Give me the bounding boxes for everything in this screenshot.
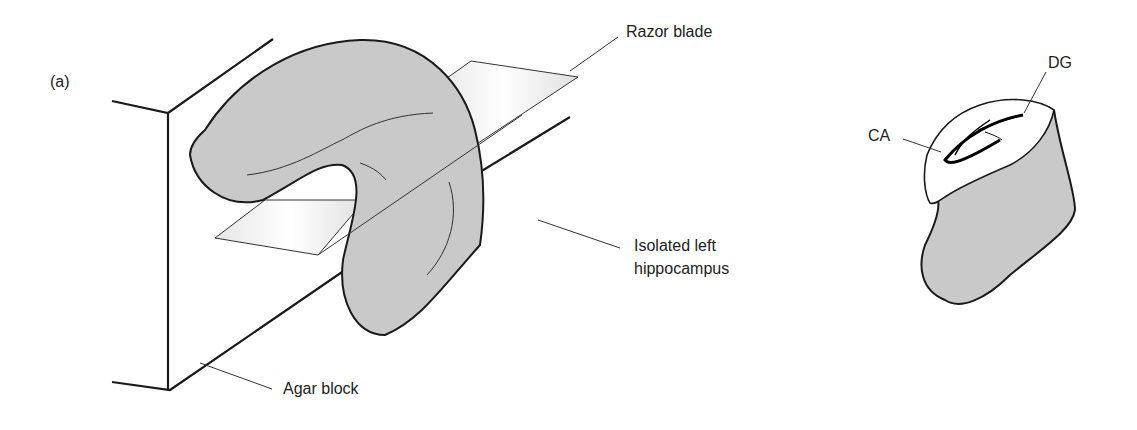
isolated-hippocampus-label-line1: Isolated left (634, 237, 716, 254)
ca-label: CA (868, 127, 891, 144)
hippocampus-slicing-diagram: (a) Razor blade Isolated left hippocampu… (0, 0, 1137, 430)
isolated-hippocampus-label-line2: hippocampus (634, 260, 729, 277)
isolated-hippocampus (190, 40, 483, 335)
razor-blade-label: Razor blade (626, 23, 712, 40)
hippocampal-slice (922, 100, 1075, 304)
dg-label: DG (1048, 54, 1072, 71)
agar-block-label: Agar block (283, 380, 360, 397)
panel-label: (a) (50, 73, 70, 90)
